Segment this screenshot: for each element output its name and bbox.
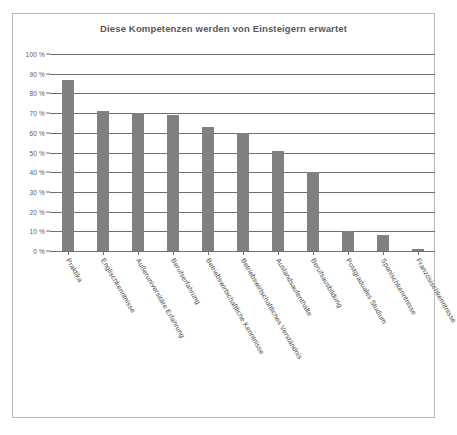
- plot-area: 100 %90 %80 %70 %60 %50 %40 %30 %20 %10 …: [50, 54, 435, 251]
- bar: [272, 151, 284, 251]
- x-tick-mark: [243, 251, 244, 255]
- y-tick-mark: [46, 132, 50, 133]
- bar: [307, 172, 319, 251]
- x-tick-mark: [103, 251, 104, 255]
- y-tick-label: 20 %: [29, 208, 45, 215]
- gridline: [50, 93, 435, 94]
- bar: [167, 115, 179, 251]
- x-tick-label: Berufsausbildung: [309, 257, 343, 309]
- y-tick-label: 0 %: [33, 248, 45, 255]
- x-tick-mark: [383, 251, 384, 255]
- chart-title: Diese Kompetenzen werden von Einsteigern…: [13, 23, 434, 34]
- bar: [202, 127, 214, 251]
- x-tick-label: Spanischkenntnisse: [379, 257, 417, 316]
- y-tick-label: 50 %: [29, 149, 45, 156]
- y-tick-label: 40 %: [29, 169, 45, 176]
- x-tick-label: Französischkenntnisse: [414, 257, 457, 324]
- y-tick-mark: [46, 113, 50, 114]
- x-tick-label: Postgraduales Studium: [344, 257, 387, 325]
- x-tick-label: Betriebswirtschaftliches Verständnis: [239, 257, 303, 360]
- bar: [237, 133, 249, 251]
- y-tick-label: 90 %: [29, 70, 45, 77]
- bar: [132, 113, 144, 251]
- x-tick-mark: [313, 251, 314, 255]
- x-tick-mark: [68, 251, 69, 255]
- y-tick-mark: [46, 93, 50, 94]
- gridline: [50, 54, 435, 55]
- y-tick-label: 100 %: [26, 51, 45, 58]
- bar: [97, 111, 109, 251]
- y-tick-mark: [46, 231, 50, 232]
- y-tick-mark: [46, 211, 50, 212]
- y-tick-label: 80 %: [29, 90, 45, 97]
- y-tick-label: 70 %: [29, 110, 45, 117]
- x-tick-mark: [138, 251, 139, 255]
- y-tick-mark: [46, 191, 50, 192]
- bar: [62, 80, 74, 251]
- x-tick-label: Auslandsaufenthalte: [274, 257, 313, 317]
- x-tick-mark: [418, 251, 419, 255]
- y-tick-mark: [46, 152, 50, 153]
- y-tick-mark: [46, 54, 50, 55]
- x-tick-label: Englischkenntnisse: [99, 257, 136, 314]
- bar: [377, 235, 389, 251]
- y-tick-mark: [46, 172, 50, 173]
- x-tick-mark: [173, 251, 174, 255]
- x-tick-label: Betriebswirtschaftliche Kenntnisse: [204, 257, 265, 355]
- x-tick-label: Berufserfahrung: [169, 257, 201, 305]
- chart-frame: Diese Kompetenzen werden von Einsteigern…: [12, 13, 435, 418]
- x-tick-mark: [278, 251, 279, 255]
- y-tick-mark: [46, 251, 50, 252]
- bar: [342, 231, 354, 251]
- y-tick-label: 10 %: [29, 228, 45, 235]
- y-tick-label: 30 %: [29, 188, 45, 195]
- gridline: [50, 74, 435, 75]
- y-tick-mark: [46, 73, 50, 74]
- x-tick-mark: [348, 251, 349, 255]
- x-tick-label: Praktika: [64, 257, 83, 283]
- x-tick-mark: [208, 251, 209, 255]
- y-tick-label: 60 %: [29, 129, 45, 136]
